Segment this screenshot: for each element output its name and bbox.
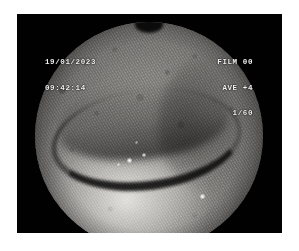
timestamp-overlay: 19/01/2023 09:42:14 xyxy=(45,41,96,109)
film-frame: 19/01/2023 09:42:14 FILM 00 AVE +4 1/60 xyxy=(17,14,282,233)
specular-highlight xyxy=(200,194,205,199)
endoscopy-image-viewer: 19/01/2023 09:42:14 FILM 00 AVE +4 1/60 xyxy=(0,0,299,251)
overlay-shutter-speed: 1/60 xyxy=(217,109,253,118)
camera-settings-overlay: FILM 00 AVE +4 1/60 xyxy=(217,41,253,135)
overlay-date: 19/01/2023 xyxy=(45,58,96,67)
overlay-film-counter: FILM 00 xyxy=(217,58,253,67)
overlay-time: 09:42:14 xyxy=(45,84,96,93)
specular-highlight xyxy=(142,153,146,157)
specular-highlight xyxy=(135,141,138,144)
overlay-average-gain: AVE +4 xyxy=(217,84,253,93)
